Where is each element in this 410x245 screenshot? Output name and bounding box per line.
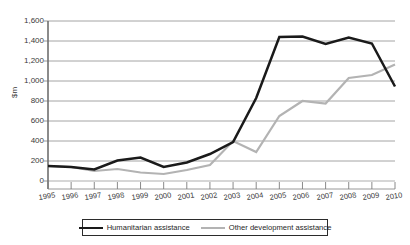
legend-item-other-development-assistance[interactable]: Other development assistance [201,223,332,232]
x-axis-tick-label: 2001 [177,190,195,201]
x-axis-tick-label: 1998 [107,190,125,201]
x-axis-tick-label: 1995 [38,190,56,201]
x-axis-tick-label: 2009 [362,190,380,201]
black-line-swatch [79,227,103,229]
x-axis-tick-label: 1996 [61,190,79,201]
x-axis-tick-label: 1997 [84,190,102,201]
x-axis-tick-labels: 1995199619971998199920002001200220032004… [0,0,410,245]
x-axis-tick-label: 2004 [246,190,264,201]
x-axis-tick-label: 2005 [269,190,287,201]
legend-item-label: Other development assistance [229,223,332,232]
x-axis-tick-label: 2002 [200,190,218,201]
line-chart: $m 02004006008001,0001,2001,4001,600 199… [0,0,410,245]
x-axis-tick-label: 2006 [292,190,310,201]
x-axis-tick-label: 1999 [131,190,149,201]
gray-line-swatch [201,227,225,229]
x-axis-tick-label: 2008 [339,190,357,201]
x-axis-tick-label: 2003 [223,190,241,201]
x-axis-tick-label: 2010 [385,190,403,201]
x-axis-tick-label: 2007 [316,190,334,201]
chart-legend: Humanitarian assistance Other developmen… [82,219,328,236]
legend-item-humanitarian-assistance[interactable]: Humanitarian assistance [79,223,190,232]
x-axis-tick-label: 2000 [154,190,172,201]
legend-item-label: Humanitarian assistance [107,223,190,232]
